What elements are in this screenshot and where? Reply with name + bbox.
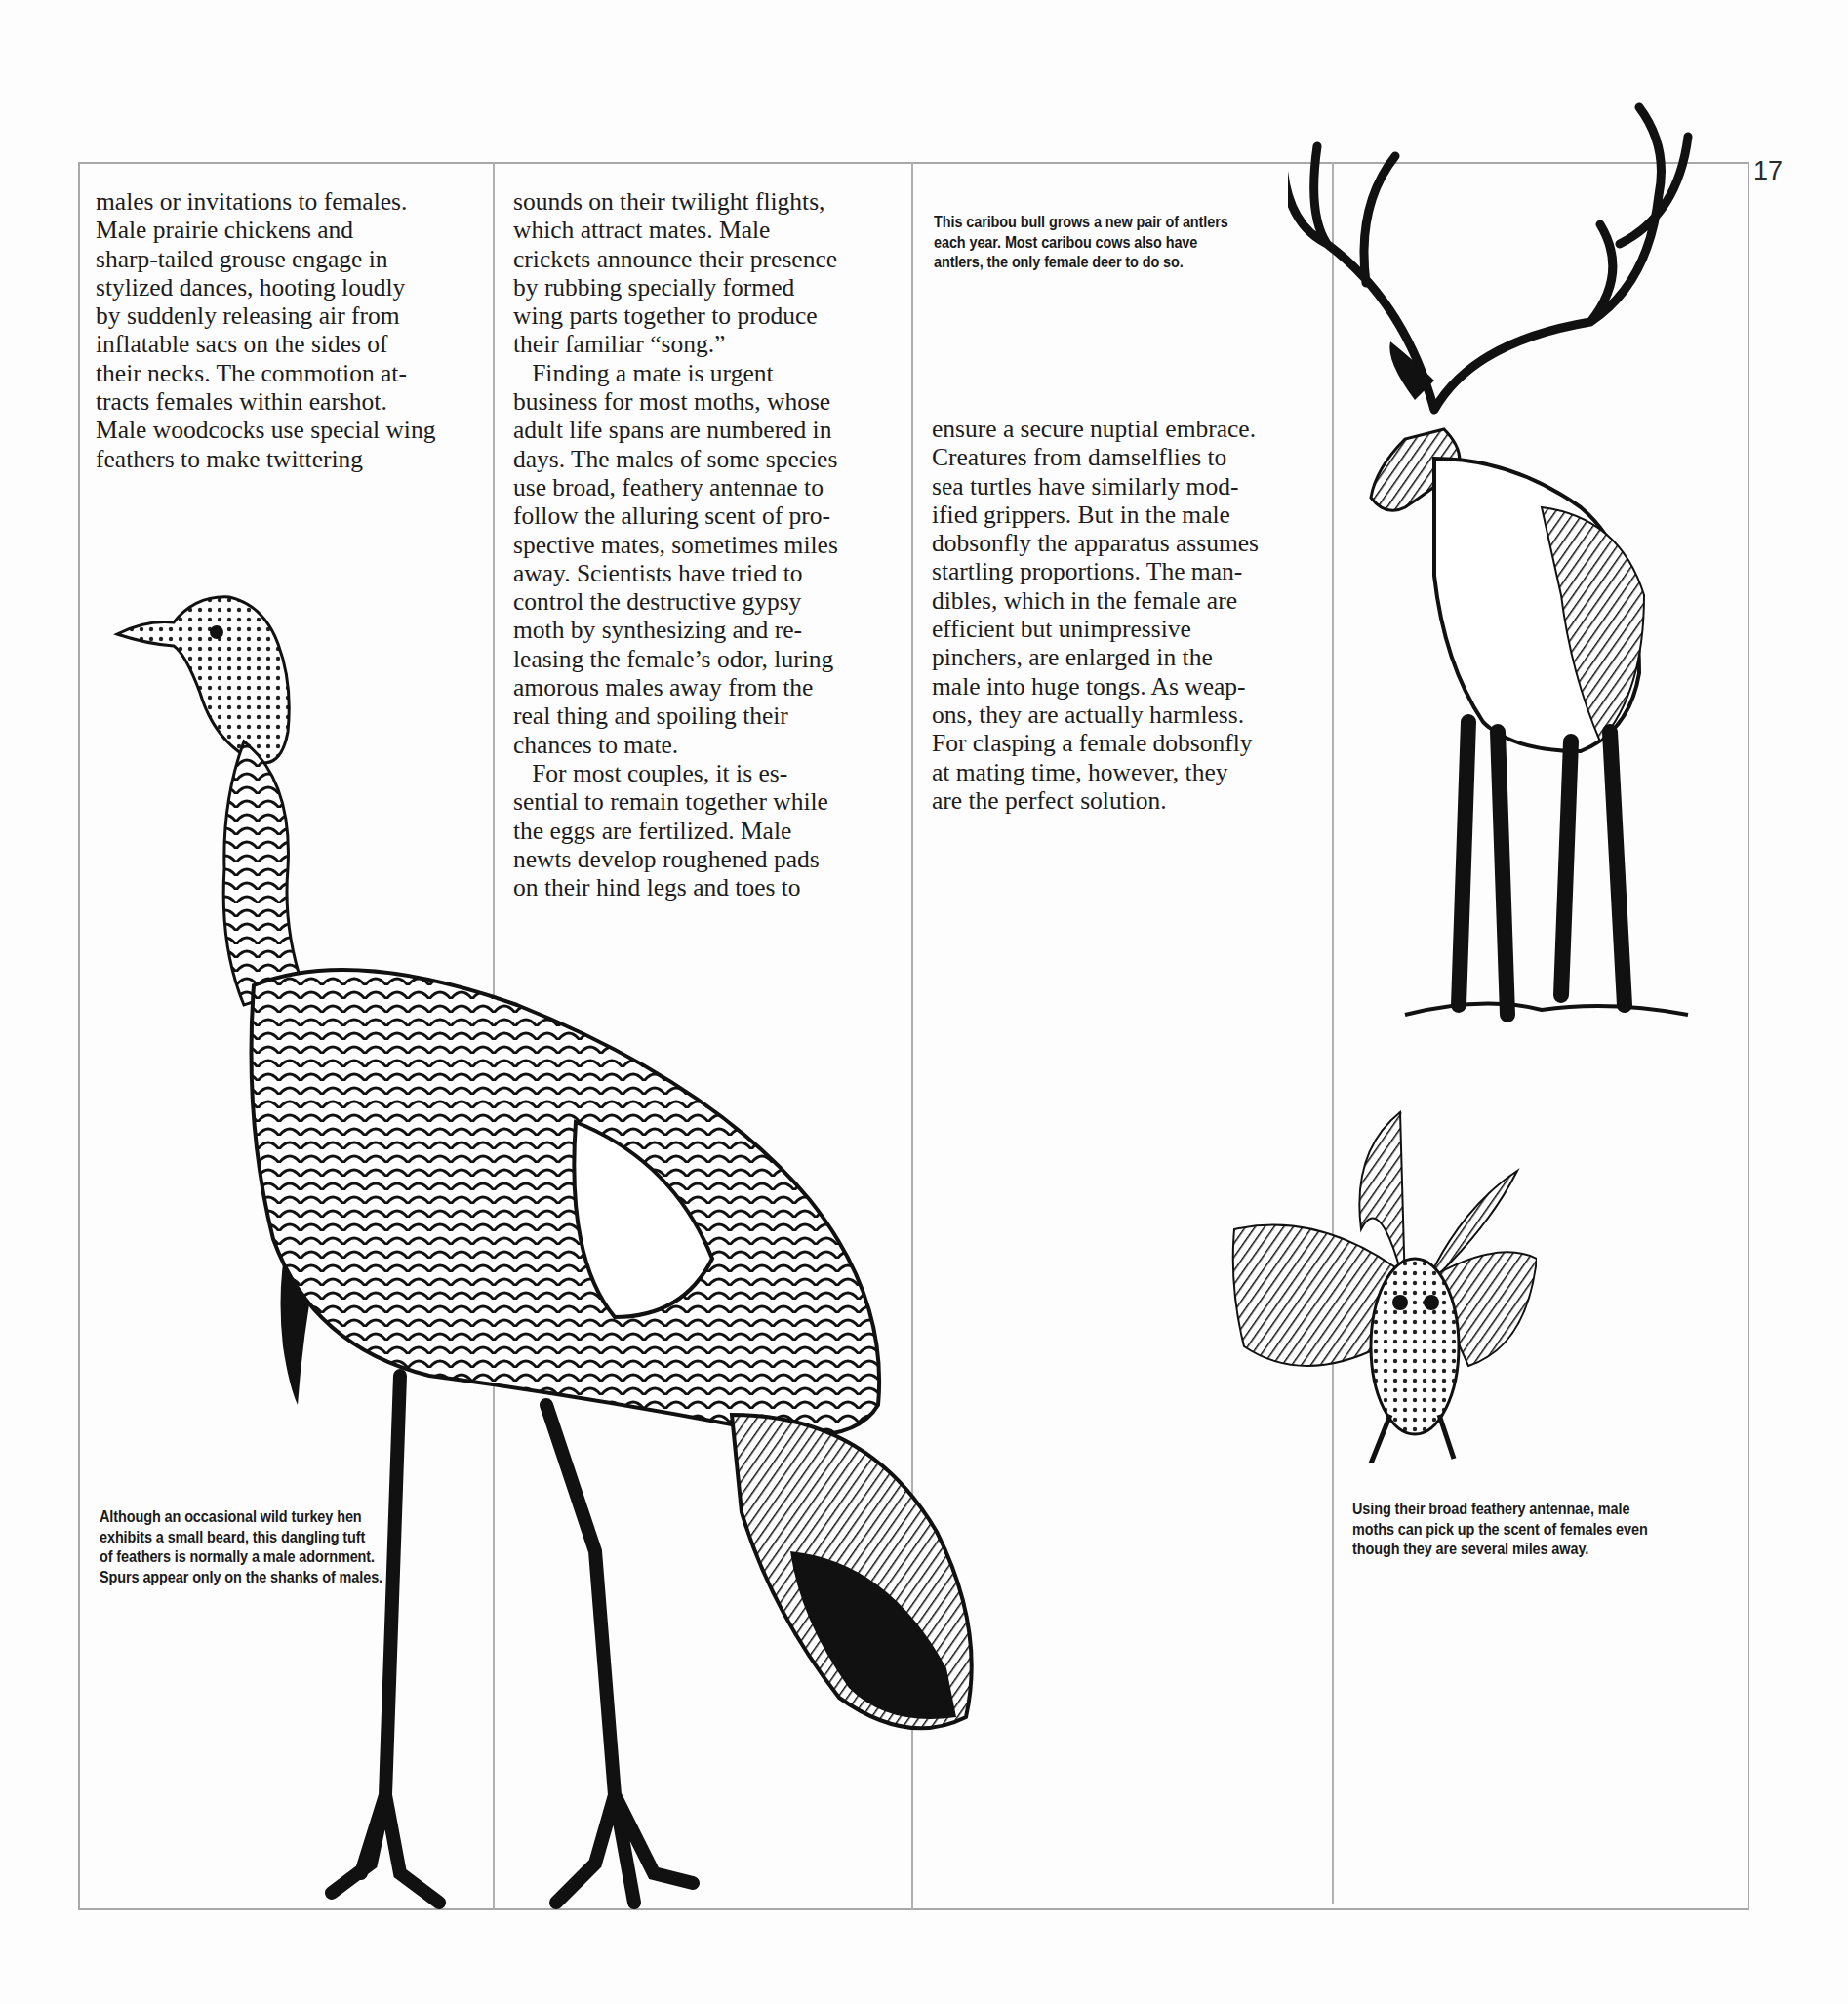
page-number: 17: [1753, 156, 1783, 186]
caption-moth: Using their broad feathery antennae, mal…: [1352, 1500, 1648, 1560]
turkey-illustration: [107, 576, 1307, 1981]
moth-illustration: [1215, 1093, 1537, 1463]
caribou-illustration: [1288, 49, 1717, 1054]
body-column-1: males or invitations to females. Male pr…: [96, 187, 435, 473]
caption-caribou: This caribou bull grows a new pair of an…: [934, 213, 1228, 273]
